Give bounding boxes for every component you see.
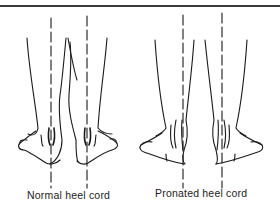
pronated-right-ankle-line (227, 125, 230, 148)
normal-right-ankle-line (94, 135, 96, 146)
pronated-right-foot (216, 133, 263, 164)
pronated-right-cord (224, 120, 226, 148)
normal-right-foot (77, 131, 117, 164)
pronated-left-leg-inner (183, 40, 194, 164)
pronated-right-cord-2 (217, 120, 218, 150)
pronated-left-foot (140, 133, 184, 164)
pronated-left-ankle-line (170, 125, 173, 148)
normal-left-cord-mark (48, 128, 50, 145)
heel-cord-illustration (0, 0, 280, 215)
normal-right-cord-mark (84, 128, 86, 145)
pronated-left-sole-mark (166, 154, 167, 161)
normal-right-leg-inner (69, 42, 78, 162)
pronated-left-cord (175, 120, 177, 148)
pronated-left-leg-outer (155, 40, 166, 136)
normal-left-leg-outer (27, 38, 38, 135)
normal-right-leg-outer (98, 38, 112, 134)
pronated-right-sole-mark (234, 154, 235, 161)
normal-right-leg-inner-top (68, 38, 77, 80)
pronated-heel-cord-figure (140, 13, 263, 188)
normal-left-ankle-line (41, 135, 43, 146)
pronated-right-leg-outer (236, 40, 247, 136)
caption-normal-heel-cord: Normal heel cord (27, 189, 110, 201)
normal-right-cord-mark-2 (89, 128, 91, 145)
normal-left-cord-mark-2 (53, 128, 55, 145)
pronated-right-leg-inner (205, 40, 218, 164)
caption-pronated-heel-cord: Pronated heel cord (155, 187, 247, 199)
normal-heel-cord-figure (19, 16, 118, 188)
